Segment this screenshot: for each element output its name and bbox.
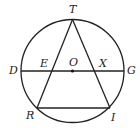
center-point-o (71, 69, 74, 72)
label-o: O (69, 57, 78, 68)
label-r: R (26, 110, 34, 121)
label-d: D (9, 65, 18, 76)
label-t: T (69, 4, 76, 15)
label-g: G (127, 65, 136, 76)
label-i: I (111, 112, 115, 123)
label-e: E (40, 58, 48, 69)
label-x: X (99, 58, 107, 69)
